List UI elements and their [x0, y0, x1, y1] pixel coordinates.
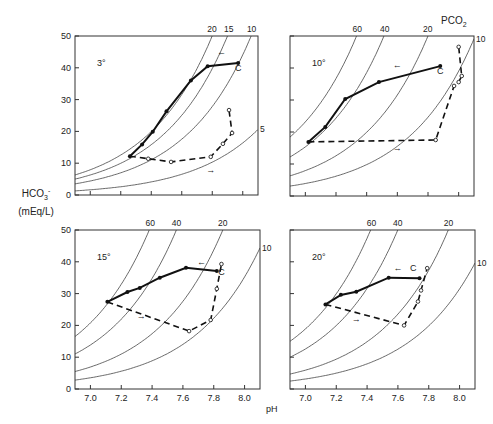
- pco2-isopleth-10: [75, 248, 260, 380]
- pco2-isopleth-40: [75, 0, 260, 354]
- control-marker: C: [218, 267, 225, 277]
- data-point-filled: [189, 79, 193, 83]
- direction-arrow: ←: [197, 257, 206, 267]
- data-point-open: [227, 108, 231, 112]
- isopleth-label-10: 10: [247, 24, 257, 34]
- pco2-isopleth-40: [290, 0, 475, 357]
- data-point-filled: [418, 276, 422, 280]
- direction-arrow: →: [352, 314, 361, 324]
- data-point-filled: [306, 140, 310, 144]
- x-tick-label: 7.4: [146, 393, 159, 403]
- y-axis-label: HCO3- (mEq/L): [6, 184, 66, 219]
- data-point-filled: [323, 302, 327, 306]
- data-point-filled: [387, 276, 391, 280]
- temperature-label: 3°: [97, 58, 106, 68]
- control-marker: C: [410, 263, 417, 273]
- isopleth-label-20: 20: [423, 24, 433, 34]
- data-point-open: [402, 324, 406, 328]
- data-point-open: [230, 131, 234, 135]
- direction-arrow: ←: [393, 60, 402, 70]
- x-tick-label: 8.0: [453, 393, 466, 403]
- y-axis-label-units: (mEq/L): [18, 206, 54, 217]
- data-point-open: [425, 266, 429, 270]
- data-point-open: [146, 157, 150, 161]
- temperature-label: 20°: [312, 252, 326, 262]
- x-tick-label: 7.0: [299, 393, 312, 403]
- data-point-open: [221, 142, 225, 146]
- direction-arrow: →: [393, 143, 402, 153]
- y-tick-label: 20: [61, 320, 71, 330]
- y-axis-label-hco: HCO: [22, 188, 44, 199]
- y-tick-label: 0: [66, 190, 71, 200]
- isopleth-label-60: 60: [352, 24, 362, 34]
- direction-arrow: ←: [217, 47, 226, 57]
- data-point-open: [452, 84, 456, 88]
- control-marker: C: [235, 63, 242, 73]
- panel-3deg: 2015105010203040503°C←→: [61, 0, 265, 200]
- pco2-label-text: PCO: [441, 15, 463, 26]
- data-point-open: [187, 329, 191, 333]
- data-point-filled: [343, 97, 347, 101]
- data-point-filled: [339, 293, 343, 297]
- y-tick-label: 40: [61, 63, 71, 73]
- isopleth-label-40: 40: [380, 24, 390, 34]
- direction-arrow: →: [206, 165, 215, 175]
- isopleth-label-5: 5: [260, 124, 265, 134]
- data-point-filled: [184, 266, 188, 270]
- y-tick-label: 10: [61, 158, 71, 168]
- data-point-open: [169, 160, 173, 164]
- x-tick-label: 7.6: [177, 393, 190, 403]
- acidosis-line: [308, 47, 461, 142]
- y-tick-label: 40: [61, 257, 71, 267]
- data-point-filled: [377, 80, 381, 84]
- x-tick-label: 7.4: [361, 393, 374, 403]
- pco2-label: PCO2: [441, 15, 467, 28]
- x-axis-label: pH: [266, 404, 278, 414]
- data-point-filled: [151, 130, 155, 134]
- x-tick-label: 7.6: [392, 393, 405, 403]
- y-tick-label: 30: [61, 289, 71, 299]
- x-tick-label: 7.8: [207, 393, 220, 403]
- y-axis-label-sub: 3: [44, 194, 48, 201]
- data-point-filled: [125, 290, 129, 294]
- data-point-open: [457, 45, 461, 49]
- y-tick-label: 20: [61, 126, 71, 136]
- isopleth-label-60: 60: [367, 218, 377, 228]
- data-point-filled: [158, 276, 162, 280]
- data-point-open: [209, 318, 213, 322]
- y-tick-label: 0: [66, 384, 71, 394]
- recovery-line: [326, 278, 420, 305]
- direction-arrow: →: [137, 311, 146, 321]
- hco3-ph-diagram: 2015105010203040503°C←→6040201010°C←→604…: [0, 0, 493, 424]
- isopleth-label-15: 15: [224, 24, 234, 34]
- y-axis-label-sup: -: [48, 187, 50, 194]
- control-marker: C: [437, 66, 444, 76]
- data-point-open: [416, 300, 420, 304]
- direction-arrow: ←: [393, 263, 402, 273]
- temperature-label: 10°: [312, 58, 326, 68]
- data-point-filled: [140, 142, 144, 146]
- isopleth-label-20: 20: [444, 218, 454, 228]
- x-tick-label: 8.0: [238, 393, 251, 403]
- y-tick-label: 30: [61, 95, 71, 105]
- data-point-open: [434, 138, 438, 142]
- x-tick-label: 7.8: [422, 393, 435, 403]
- isopleth-label-20: 20: [218, 218, 228, 228]
- isopleth-label-10: 10: [477, 258, 487, 268]
- data-point-filled: [128, 154, 132, 158]
- y-tick-label: 50: [61, 225, 71, 235]
- data-point-filled: [105, 300, 109, 304]
- pco2-isopleth-5: [75, 130, 258, 191]
- data-point-open: [457, 80, 461, 84]
- y-tick-label: 50: [61, 31, 71, 41]
- temperature-label: 15°: [97, 252, 111, 262]
- data-point-open: [209, 155, 213, 159]
- x-tick-label: 7.2: [115, 393, 128, 403]
- recovery-line: [308, 66, 440, 142]
- data-point-filled: [138, 286, 142, 290]
- acidosis-line: [107, 264, 221, 331]
- data-point-open: [220, 262, 224, 266]
- isopleth-label-10: 10: [262, 243, 272, 253]
- acidosis-line: [130, 110, 232, 162]
- x-tick-label: 7.2: [330, 393, 343, 403]
